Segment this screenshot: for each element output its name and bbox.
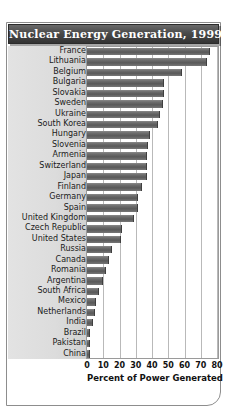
bar-row (87, 78, 218, 88)
category-label: China (63, 349, 86, 359)
category-label: United States (32, 234, 86, 244)
bar (87, 90, 164, 97)
bar (87, 58, 207, 65)
category-label: Switzerland (39, 161, 86, 171)
bar (87, 215, 134, 222)
bar-row (87, 266, 218, 276)
bar (87, 204, 138, 211)
category-label: Slovakia (52, 88, 86, 98)
category-label: Pakistan (53, 338, 87, 348)
category-label: Belgium (53, 67, 86, 77)
category-label: Germany (49, 192, 86, 202)
bar-row (87, 193, 218, 203)
bar-row (87, 287, 218, 297)
bar-row (87, 339, 218, 349)
x-tick-label: 40 (146, 361, 157, 370)
category-label: France (59, 46, 86, 56)
bar (87, 48, 210, 55)
bar (87, 340, 90, 347)
chart-title: Nuclear Energy Generation, 1999 (9, 25, 220, 45)
bar-rows (87, 47, 218, 358)
bar-row (87, 308, 218, 318)
bar-row (87, 57, 218, 67)
bar (87, 152, 147, 159)
bar (87, 194, 138, 201)
bar-row (87, 162, 218, 172)
bar (87, 319, 93, 326)
bar-row (87, 245, 218, 255)
x-tick-label: 0 (84, 361, 90, 370)
bar (87, 183, 142, 190)
bar-row (87, 99, 218, 109)
category-label: Bulgaria (53, 77, 86, 87)
chart-figure: Nuclear Energy Generation, 1999 FranceLi… (0, 0, 230, 417)
bar-row (87, 110, 218, 120)
bar (87, 100, 163, 107)
x-tick-label: 20 (114, 361, 125, 370)
bar-row (87, 255, 218, 265)
category-label: Finland (57, 182, 86, 192)
bar-row (87, 130, 218, 140)
bar (87, 288, 99, 295)
bar (87, 298, 96, 305)
bar (87, 131, 150, 138)
category-label: Spain (64, 203, 86, 213)
x-tick-label: 70 (195, 361, 206, 370)
category-label: Sweden (54, 98, 86, 108)
bar-row (87, 47, 218, 57)
bar-row (87, 328, 218, 338)
x-axis-ticks: 01020304050607080 (87, 361, 219, 373)
bar (87, 256, 109, 263)
category-label: Romania (51, 265, 86, 275)
category-label: Russia (60, 244, 86, 254)
bar (87, 267, 106, 274)
bar (87, 121, 158, 128)
bar (87, 142, 148, 149)
bar (87, 163, 147, 170)
bar-row (87, 203, 218, 213)
category-label: South Africa (37, 286, 86, 296)
bar-row (87, 318, 218, 328)
category-label: Netherlands (37, 307, 86, 317)
x-tick-label: 50 (163, 361, 174, 370)
x-tick-label: 60 (179, 361, 190, 370)
bar-row (87, 297, 218, 307)
category-label: Hungary (52, 129, 86, 139)
bar-row (87, 120, 218, 130)
category-label: Mexico (58, 296, 86, 306)
category-label: Japan (64, 171, 86, 181)
category-label: Slovenia (52, 140, 86, 150)
bar-row (87, 235, 218, 245)
x-axis-label: Percent of Power Generated (87, 373, 219, 383)
category-label: Ukraine (55, 109, 86, 119)
x-tick-label: 30 (130, 361, 141, 370)
bar-row (87, 172, 218, 182)
bar (87, 225, 122, 232)
category-label: South Korea (38, 119, 86, 129)
bar-row (87, 349, 218, 359)
category-label: India (66, 317, 86, 327)
category-label: Argentina (47, 276, 86, 286)
category-label: Armenia (52, 150, 86, 160)
bar (87, 350, 90, 357)
category-label: Canada (56, 255, 86, 265)
bar-row (87, 182, 218, 192)
plot-area (87, 46, 219, 359)
bar (87, 173, 147, 180)
bar (87, 277, 103, 284)
bar-row (87, 214, 218, 224)
category-label: United Kingdom (22, 213, 86, 223)
bar (87, 79, 164, 86)
bar (87, 309, 95, 316)
bar (87, 246, 112, 253)
chart-title-bar: Nuclear Energy Generation, 1999 (8, 24, 219, 44)
bar (87, 69, 182, 76)
category-label: Czech Republic (25, 223, 86, 233)
x-tick-label: 80 (211, 361, 222, 370)
bar-row (87, 276, 218, 286)
bar-row (87, 68, 218, 78)
bar-row (87, 224, 218, 234)
bar-row (87, 89, 218, 99)
x-tick-label: 10 (98, 361, 109, 370)
category-label: Lithuania (49, 56, 86, 66)
